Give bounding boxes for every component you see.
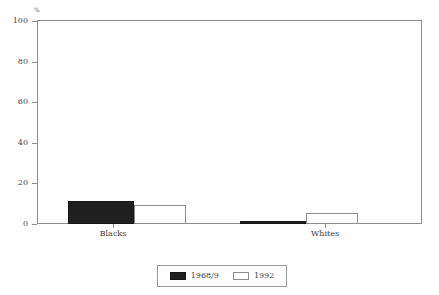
bar-chart: % 100 80 60 40 20 0 Blacks Whites xyxy=(0,0,439,295)
y-axis-tick-label: 80 xyxy=(18,56,28,67)
legend-entry-1992[interactable]: 1992 xyxy=(233,271,274,281)
bar-whites-1992[interactable] xyxy=(306,213,358,224)
y-axis-title: % xyxy=(34,6,40,14)
y-axis-tick-100: 100 xyxy=(0,21,37,22)
y-axis-tick-80: 80 xyxy=(0,62,37,63)
y-axis-tick-60: 60 xyxy=(0,102,37,103)
y-axis-tick-mark xyxy=(32,62,37,63)
legend-swatch-icon xyxy=(170,272,186,280)
y-axis-tick-mark xyxy=(32,183,37,184)
y-axis-tick-mark xyxy=(32,102,37,103)
y-axis-tick-label: 100 xyxy=(13,15,28,26)
bar-blacks-1992[interactable] xyxy=(134,205,186,224)
bar-blacks-1968-9[interactable] xyxy=(68,201,134,224)
legend-swatch-icon xyxy=(233,272,249,280)
x-axis-label-blacks: Blacks xyxy=(78,228,148,239)
y-axis-tick-20: 20 xyxy=(0,183,37,184)
legend-label: 1992 xyxy=(254,271,274,281)
y-axis-tick-label: 20 xyxy=(18,177,28,188)
chart-legend: 1968/9 1992 xyxy=(157,265,287,287)
x-axis-label-whites: Whites xyxy=(290,228,360,239)
legend-label: 1968/9 xyxy=(191,271,219,281)
y-axis-tick-mark xyxy=(32,21,37,22)
plot-area xyxy=(38,21,421,224)
y-axis-tick-40: 40 xyxy=(0,143,37,144)
y-axis-tick-label: 40 xyxy=(18,137,28,148)
y-axis-tick-mark xyxy=(32,224,37,225)
y-axis-tick-label: 60 xyxy=(18,96,28,107)
bar-whites-1968-9[interactable] xyxy=(240,221,306,224)
y-axis-tick-0: 0 xyxy=(0,224,37,225)
legend-entry-1968-9[interactable]: 1968/9 xyxy=(170,271,219,281)
y-axis-tick-mark xyxy=(32,143,37,144)
y-axis-tick-label: 0 xyxy=(23,218,28,229)
